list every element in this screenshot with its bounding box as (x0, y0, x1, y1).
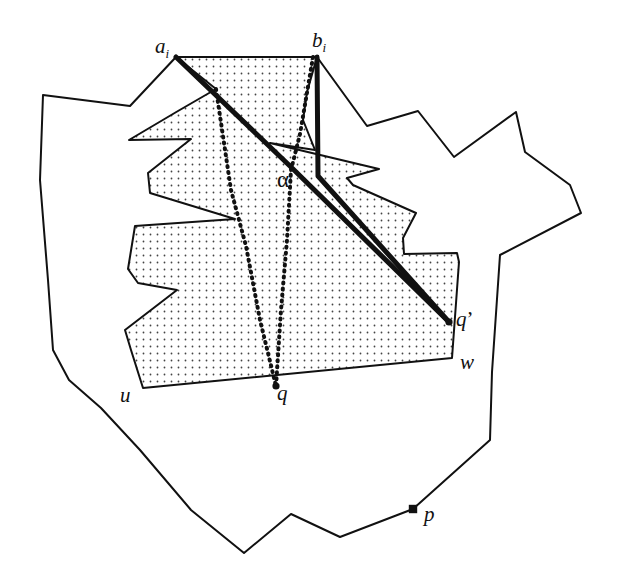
label-text: α (277, 167, 289, 192)
label-text: u (120, 383, 131, 407)
label-text: q (456, 307, 467, 331)
geometry-diagram-canvas (0, 0, 618, 583)
label-prime: ’ (467, 307, 474, 331)
point-q-prime (445, 318, 452, 325)
label-text: b (312, 28, 323, 52)
shaded-visibility-region (125, 57, 459, 388)
label-text: w (460, 350, 474, 374)
label-p: p (424, 504, 435, 525)
label-subscript: i (323, 40, 327, 55)
label-q: q (277, 383, 288, 404)
figure-root: aibiαq’wuqp (0, 0, 618, 583)
label-b-i: bi (312, 30, 326, 54)
label-alpha: α (277, 168, 289, 191)
label-a-i: ai (155, 36, 169, 60)
label-text: q (277, 381, 288, 405)
label-text: p (424, 502, 435, 526)
label-q-prime: q’ (456, 309, 474, 330)
point-p (409, 505, 417, 513)
label-u: u (120, 385, 131, 406)
label-subscript: i (166, 46, 170, 61)
label-text: a (155, 34, 166, 58)
label-w: w (460, 352, 474, 373)
